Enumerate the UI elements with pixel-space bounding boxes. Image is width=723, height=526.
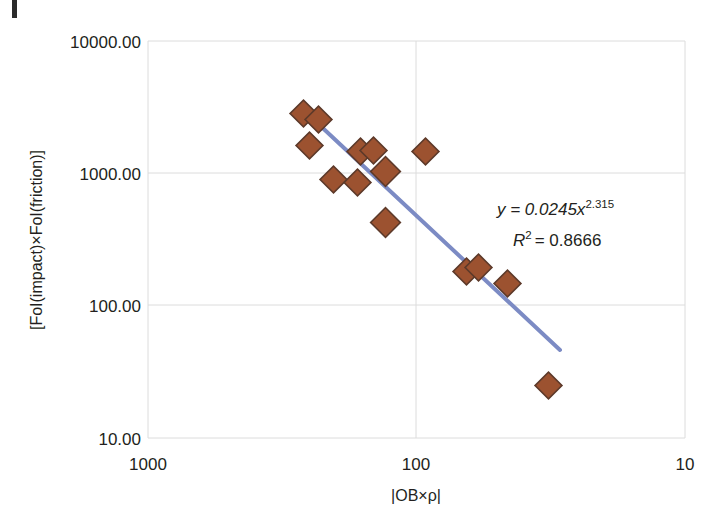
equation-exponent: 2.315 xyxy=(585,198,614,210)
r-squared-superscript: 2 xyxy=(525,229,531,241)
y-tick-label-10000: 10000.00 xyxy=(70,33,141,52)
equation-body: y = 0.0245x xyxy=(496,200,586,219)
x-tick-label-1000: 1000 xyxy=(129,455,167,474)
scatter-plot: 10000.00 1000.00 100.00 10.00 1000 100 1… xyxy=(0,0,723,526)
y-tick-label-100: 100.00 xyxy=(89,297,141,316)
y-tick-label-10: 10.00 xyxy=(98,430,141,449)
r-squared-value: = 0.8666 xyxy=(535,231,602,250)
x-axis-title: |OB×ρ| xyxy=(391,487,441,504)
x-tick-label-10: 10 xyxy=(676,455,695,474)
chart-figure: 10000.00 1000.00 100.00 10.00 1000 100 1… xyxy=(0,0,723,526)
y-axis-title: [FoI(impact)×FoI(friction)] xyxy=(28,150,45,330)
r-squared-symbol: R xyxy=(513,231,525,250)
x-tick-label-100: 100 xyxy=(402,455,430,474)
y-tick-label-1000: 1000.00 xyxy=(80,165,141,184)
